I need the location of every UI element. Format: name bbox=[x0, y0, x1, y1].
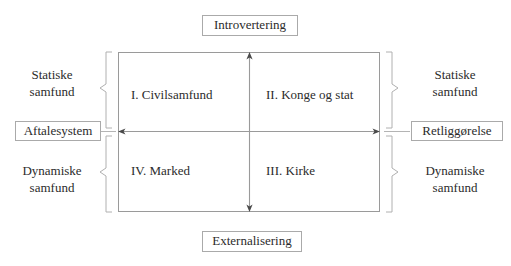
brace-right-bottom bbox=[386, 136, 398, 212]
side-label-right-bottom-line1: Dynamiske bbox=[425, 163, 484, 178]
quadrant-4-label: IV. Marked bbox=[131, 164, 190, 177]
side-label-left-bottom: Dynamiske samfund bbox=[8, 162, 96, 196]
axis-pole-top-label: Introvertering bbox=[202, 15, 298, 36]
side-label-left-bottom-line2: samfund bbox=[30, 180, 75, 195]
side-label-right-bottom: Dynamiske samfund bbox=[410, 162, 500, 196]
quadrant-1-label: I. Civilsamfund bbox=[131, 88, 213, 101]
side-label-right-bottom-line2: samfund bbox=[433, 180, 478, 195]
side-label-left-top: Statiske samfund bbox=[8, 66, 96, 100]
axis-pole-left-label: Aftalesystem bbox=[15, 121, 101, 141]
quadrant-frame bbox=[118, 52, 380, 212]
side-label-left-bottom-line1: Dynamiske bbox=[22, 163, 81, 178]
axis-pole-right-label: Retliggørelse bbox=[411, 121, 503, 141]
brace-right-top bbox=[386, 52, 398, 128]
axis-pole-bottom-label: Externalisering bbox=[202, 231, 302, 252]
quadrant-3-label: III. Kirke bbox=[266, 164, 315, 177]
side-label-left-top-line1: Statiske bbox=[31, 67, 72, 82]
brace-left-bottom bbox=[100, 136, 112, 212]
brace-left-top bbox=[100, 52, 112, 128]
quadrant-2-label: II. Konge og stat bbox=[266, 88, 353, 101]
side-label-left-top-line2: samfund bbox=[30, 84, 75, 99]
side-label-right-top: Statiske samfund bbox=[410, 66, 500, 100]
quadrant-diagram: Introvertering Externalisering Aftalesys… bbox=[0, 0, 511, 266]
side-label-right-top-line2: samfund bbox=[433, 84, 478, 99]
side-label-right-top-line1: Statiske bbox=[434, 67, 475, 82]
